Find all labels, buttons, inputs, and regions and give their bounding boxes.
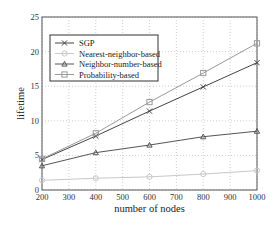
- x-tick-label: 500: [116, 192, 129, 202]
- x-tick-label: 400: [89, 192, 102, 202]
- legend-label: Nearest-neighbor-based: [79, 49, 161, 59]
- y-tick-label: 5: [35, 150, 39, 160]
- x-tick-label: 1000: [249, 192, 266, 202]
- legend-label: Neighbor-number-based: [79, 59, 162, 69]
- x-axis-ticks: 2003004005006007008009001000: [36, 192, 266, 202]
- x-axis-label: number of nodes: [114, 203, 185, 214]
- legend-label: SGP: [79, 38, 95, 48]
- y-tick-label: 25: [31, 12, 40, 22]
- x-tick-label: 600: [143, 192, 156, 202]
- x-tick-label: 800: [197, 192, 210, 202]
- legend: SGPNearest-neighbor-basedNeighbor-number…: [50, 35, 162, 81]
- y-tick-label: 0: [35, 185, 39, 195]
- legend-label: Probability-based: [79, 70, 140, 80]
- line-chart: 2003004005006007008009001000 0510152025 …: [0, 0, 276, 225]
- y-tick-label: 10: [31, 116, 40, 126]
- y-axis-ticks: 0510152025: [31, 12, 40, 195]
- y-tick-label: 15: [31, 81, 40, 91]
- x-tick-label: 700: [170, 192, 183, 202]
- y-tick-label: 20: [31, 47, 40, 57]
- x-tick-label: 900: [224, 192, 237, 202]
- y-axis-label: lifetime: [15, 87, 26, 120]
- x-tick-label: 300: [63, 192, 76, 202]
